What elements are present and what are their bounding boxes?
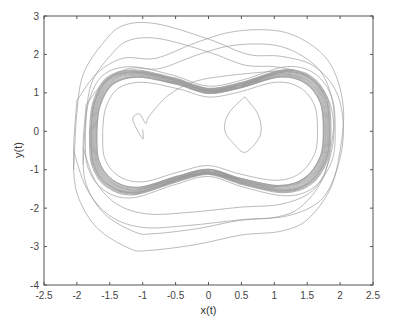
- x-tick-label: -0.5: [167, 290, 185, 301]
- y-tick-label: 2: [33, 49, 39, 60]
- phase-portrait-chart: -2.5-2-1.5-1-0.500.511.522.5 -4-3-2-1012…: [0, 0, 393, 335]
- x-tick-label: 1: [272, 290, 278, 301]
- x-tick-label: 0: [206, 290, 212, 301]
- x-tick-label: 2: [337, 290, 343, 301]
- x-tick-label: 0.5: [234, 290, 248, 301]
- y-tick-label: 3: [33, 11, 39, 22]
- x-tick-label: 1.5: [300, 290, 314, 301]
- x-axis-label: x(t): [201, 304, 217, 316]
- y-tick-label: -4: [30, 280, 39, 291]
- y-tick-label: -1: [30, 164, 39, 175]
- x-tick-label: 2.5: [366, 290, 380, 301]
- x-tick-label: -1: [138, 290, 147, 301]
- x-tick-label: -2.5: [35, 290, 53, 301]
- plot-area: [44, 16, 373, 285]
- y-tick-label: 0: [33, 126, 39, 137]
- x-tick-label: -1.5: [101, 290, 119, 301]
- y-tick-label: -2: [30, 203, 39, 214]
- y-tick-label: -3: [30, 241, 39, 252]
- y-axis-label: y(t): [12, 142, 24, 158]
- x-tick-label: -2: [72, 290, 81, 301]
- y-tick-label: 1: [33, 87, 39, 98]
